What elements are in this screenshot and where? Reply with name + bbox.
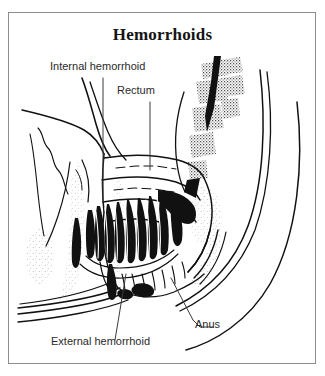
sigmoid-fold-top [82,78,110,156]
sigmoid-fold-upper [22,110,104,154]
mesentery-edge [38,128,68,194]
rectum-fold-4 [106,219,166,224]
label-internal-hemorrhoid: Internal hemorrhoid [50,60,145,72]
perineum-line-3 [18,300,128,322]
sacral-border [176,92,185,192]
rectum-fold-dashed [116,166,176,169]
label-rectum: Rectum [117,84,155,96]
vessel-branch-2 [46,162,70,246]
label-anus: Anus [195,318,220,330]
figure-page: Hemorrhoids [0,0,325,376]
label-external-hemorrhoid: External hemorrhoid [51,335,150,347]
internal-hemorrhoid-mass [72,190,196,268]
mesentery-edge-2 [30,134,44,236]
